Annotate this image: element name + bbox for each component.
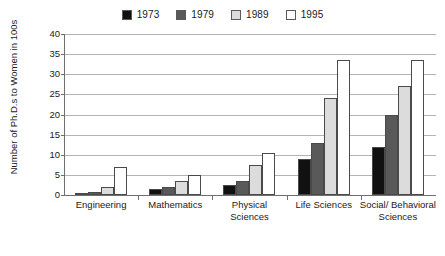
legend-label: 1995 [301,10,324,20]
y-axis-tick-label: 40 [38,29,60,39]
y-axis-tick-label: 25 [38,89,60,99]
y-axis-tick-label: 20 [38,110,60,120]
legend-swatch-icon [122,10,132,20]
bar[interactable] [398,86,411,195]
y-axis-tick-labels: 4035302520151050 [38,34,60,195]
legend-entry[interactable]: 1979 [176,10,214,20]
bar-group [64,34,138,195]
bars-layer [64,34,435,195]
bar[interactable] [223,185,236,195]
y-axis-title: Number of Ph.D.s to Women in 100s [8,12,20,182]
bar[interactable] [298,159,311,195]
y-axis-tick-label: 35 [38,49,60,59]
bar[interactable] [188,175,201,195]
y-axis-tick-label: 15 [38,130,60,140]
bar[interactable] [385,115,398,196]
bar-group [212,34,286,195]
bar-group [287,34,361,195]
bar[interactable] [149,189,162,195]
legend-entry[interactable]: 1973 [122,10,160,20]
bar[interactable] [114,167,127,195]
y-axis-tick-label: 5 [38,170,60,180]
legend-label: 1973 [137,10,160,20]
legend-swatch-icon [176,10,186,20]
legend-label: 1979 [191,10,214,20]
bar[interactable] [101,187,114,195]
bar[interactable] [411,60,424,195]
bar[interactable] [175,181,188,195]
legend-label: 1989 [246,10,269,20]
bar[interactable] [75,193,88,195]
bar[interactable] [311,143,324,195]
bar[interactable] [249,165,262,195]
y-axis-tick-label: 30 [38,69,60,79]
y-axis-tickmark [61,195,65,196]
bar[interactable] [324,98,337,195]
x-axis-tick-labels: EngineeringMathematicsPhysicalSciencesLi… [64,199,435,239]
bar[interactable] [337,60,350,195]
x-axis-tick-label-line: Sciences [349,211,445,223]
bar-group [138,34,212,195]
bar-chart: 1973197919891995 Number of Ph.D.s to Wom… [0,0,445,256]
legend-swatch-icon [231,10,241,20]
bar[interactable] [372,147,385,195]
x-axis-tick-label-line: Sciences [200,211,298,223]
bar-group [361,34,435,195]
bar[interactable] [162,187,175,195]
bar[interactable] [262,153,275,195]
legend-swatch-icon [286,10,296,20]
x-axis-tick-label-line: Social/ Behavioral [349,199,445,211]
x-axis-tick-label: Social/ BehavioralSciences [349,199,445,222]
chart-legend: 1973197919891995 [0,10,445,20]
y-axis-tick-label: 10 [38,150,60,160]
bar[interactable] [236,181,249,195]
bar[interactable] [88,192,101,195]
legend-entry[interactable]: 1995 [286,10,324,20]
legend-entry[interactable]: 1989 [231,10,269,20]
